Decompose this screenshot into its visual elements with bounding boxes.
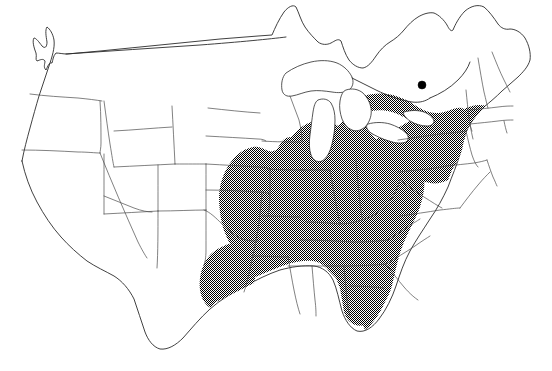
border-ny-ct xyxy=(470,124,473,139)
filled-circle-icon xyxy=(418,81,426,89)
us-map-canvas xyxy=(0,0,552,371)
border-de-md xyxy=(487,160,497,186)
border-va-md xyxy=(460,172,490,208)
border-pa-nj xyxy=(466,131,478,167)
marker-group xyxy=(418,81,426,89)
distribution-map-figure xyxy=(0,0,552,371)
border-ma-ct-ri xyxy=(470,120,513,124)
border-ms-al xyxy=(312,266,316,316)
border-ct-ri xyxy=(504,121,507,133)
